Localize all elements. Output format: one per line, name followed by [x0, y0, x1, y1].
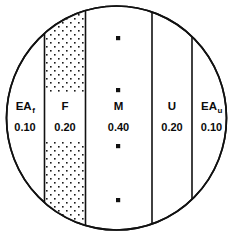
center-axis-dot [116, 36, 120, 40]
figure-canvas [0, 0, 233, 238]
band-f-fill [45, 0, 86, 238]
partition-circle-figure: EAf 0.10 F 0.20 M 0.40 U 0.20 EAu 0.10 [0, 0, 233, 238]
center-axis-dot [116, 144, 120, 148]
center-axis-dot [116, 88, 120, 92]
center-axis-dot [116, 198, 120, 202]
